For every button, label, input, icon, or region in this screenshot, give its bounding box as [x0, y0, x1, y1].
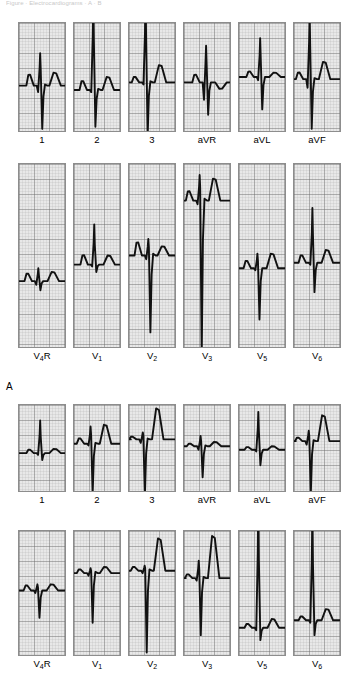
ecg-lead-v1-a: V1: [73, 163, 121, 363]
ecg-strip: [73, 530, 121, 656]
ecg-lead-iii-a: 3: [128, 22, 176, 146]
ecg-lead-label: 1: [18, 134, 66, 146]
ecg-strip: [238, 163, 286, 348]
ecg-lead-label: aVL: [238, 494, 286, 506]
ecg-lead-iii-b: 3: [128, 404, 176, 506]
ecg-lead-v2-a: V2: [128, 163, 176, 363]
ecg-lead-label: aVR: [183, 494, 231, 506]
ecg-strip: [128, 404, 176, 492]
ecg-strip: [73, 163, 121, 348]
ecg-strip: [238, 404, 286, 492]
ecg-lead-label: aVF: [293, 494, 341, 506]
ecg-strip: [238, 530, 286, 656]
ecg-lead-label: V5: [238, 350, 286, 363]
ecg-lead-label: V5: [238, 658, 286, 671]
ecg-strip: [183, 163, 231, 348]
ecg-lead-label: V6: [293, 350, 341, 363]
ecg-strip: [183, 404, 231, 492]
ecg-lead-v5-b: V5: [238, 530, 286, 671]
ecg-lead-label: V6: [293, 658, 341, 671]
ecg-lead-label: V2: [128, 658, 176, 671]
ecg-strip: [18, 530, 66, 656]
ecg-lead-v5-a: V5: [238, 163, 286, 363]
ecg-lead-label: V3: [183, 658, 231, 671]
ecg-lead-avr-a: aVR: [183, 22, 231, 146]
ecg-lead-label: V2: [128, 350, 176, 363]
ecg-lead-label: 3: [128, 134, 176, 146]
ecg-strip: [183, 530, 231, 656]
ecg-strip: [293, 22, 341, 132]
ecg-lead-avf-b: aVF: [293, 404, 341, 506]
panel-label-a: A: [6, 381, 13, 392]
ecg-lead-label: V4R: [18, 658, 66, 671]
ecg-lead-v3-b: V3: [183, 530, 231, 671]
ecg-lead-label: V1: [73, 350, 121, 363]
ecg-lead-i-a: 1: [18, 22, 66, 146]
ecg-strip: [18, 22, 66, 132]
ecg-strip: [183, 22, 231, 132]
ecg-lead-avr-b: aVR: [183, 404, 231, 506]
ecg-lead-v1-b: V1: [73, 530, 121, 671]
ecg-lead-avf-a: aVF: [293, 22, 341, 146]
ecg-lead-avl-a: aVL: [238, 22, 286, 146]
ecg-strip: [238, 22, 286, 132]
cropped-caption-text: Figure · Electrocardiograms · A · B: [6, 0, 331, 7]
ecg-lead-v4r-a: V4R: [18, 163, 66, 363]
ecg-lead-v3-a: V3: [183, 163, 231, 363]
ecg-lead-label: V1: [73, 658, 121, 671]
ecg-lead-i-b: 1: [18, 404, 66, 506]
ecg-strip: [128, 530, 176, 656]
panel-b-limb-leads: 1 2 3 aVR: [18, 404, 337, 506]
ecg-lead-label: aVF: [293, 134, 341, 146]
ecg-lead-label: V3: [183, 350, 231, 363]
ecg-lead-v6-b: V6: [293, 530, 341, 671]
ecg-lead-label: aVR: [183, 134, 231, 146]
ecg-lead-avl-b: aVL: [238, 404, 286, 506]
ecg-strip: [73, 404, 121, 492]
ecg-strip: [128, 163, 176, 348]
ecg-lead-label: 2: [73, 134, 121, 146]
panel-b-precordial-leads: V4R V1 V2 V3: [18, 530, 337, 671]
ecg-lead-v6-a: V6: [293, 163, 341, 363]
ecg-strip: [293, 530, 341, 656]
ecg-strip: [18, 163, 66, 348]
ecg-lead-label: V4R: [18, 350, 66, 363]
panel-a-precordial-leads: V4R V1 V2 V3: [18, 163, 337, 363]
panel-a-limb-leads: 1 2 3 aVR: [18, 22, 337, 146]
ecg-lead-v4r-b: V4R: [18, 530, 66, 671]
ecg-lead-label: 3: [128, 494, 176, 506]
ecg-strip: [293, 163, 341, 348]
ecg-lead-ii-a: 2: [73, 22, 121, 146]
ecg-lead-label: aVL: [238, 134, 286, 146]
ecg-lead-label: 2: [73, 494, 121, 506]
ecg-lead-ii-b: 2: [73, 404, 121, 506]
ecg-strip: [18, 404, 66, 492]
ecg-strip: [128, 22, 176, 132]
ecg-lead-label: 1: [18, 494, 66, 506]
ecg-strip: [293, 404, 341, 492]
ecg-lead-v2-b: V2: [128, 530, 176, 671]
ecg-strip: [73, 22, 121, 132]
